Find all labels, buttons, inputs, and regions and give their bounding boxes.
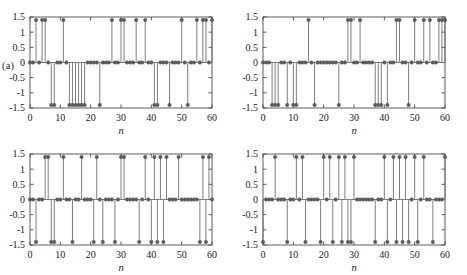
stem-marker [343,155,346,158]
stem-marker [298,198,301,201]
stem-marker [198,240,201,243]
stem-marker [183,61,186,64]
stem-marker [352,155,355,158]
stem-marker [59,198,62,201]
stem-marker [425,61,428,64]
stem-marker [276,103,279,106]
panel-label-a: (a) [2,60,14,71]
stem-marker [301,155,304,158]
stem-marker [165,155,168,158]
y-tick-label: 0 [20,57,25,68]
stem-marker [34,240,37,243]
stem-marker [261,240,264,243]
stem-marker [431,240,434,243]
stem-marker [383,155,386,158]
stem-marker [343,61,346,64]
y-tick-label: -0.5 [9,209,25,220]
x-axis-label: n [118,125,123,136]
x-tick-label: 60 [207,112,217,123]
panel-b-left-svg: 1.510.50-0.5-1-1.50102030405060n [0,138,234,275]
x-tick-label: 30 [116,249,126,260]
x-tick-label: 30 [349,112,359,123]
stem-marker [270,198,273,201]
stem-marker [71,240,74,243]
stem-marker [422,18,425,21]
stem-marker [53,103,56,106]
stem-marker [380,198,383,201]
stem-marker [334,198,337,201]
stem-marker [53,240,56,243]
stem-marker [153,155,156,158]
stem-marker [410,198,413,201]
x-tick-label: 50 [410,112,420,123]
stem-marker [292,198,295,201]
stem-marker [401,240,404,243]
stem-marker [144,18,147,21]
stem-marker [180,18,183,21]
x-tick-label: 10 [288,249,298,260]
stem-marker [80,155,83,158]
y-tick-label: 1 [20,27,25,38]
stem-marker [267,61,270,64]
stem-marker [162,240,165,243]
stem-marker [204,240,207,243]
stem-marker [95,61,98,64]
y-tick-label: 1 [253,164,258,175]
stem-marker [371,61,374,64]
stem-marker [404,155,407,158]
y-tick-label: -1 [17,87,25,98]
stem-marker [295,103,298,106]
stem-marker [47,61,50,64]
stem-marker [47,155,50,158]
stem-marker [349,240,352,243]
stem-marker [380,103,383,106]
x-tick-label: 60 [440,249,450,260]
stem-marker [307,18,310,21]
stem-marker [147,198,150,201]
stem-marker [101,240,104,243]
stem-marker [358,18,361,21]
x-tick-label: 10 [55,249,65,260]
stem-marker [325,198,328,201]
y-tick-label: -0.5 [9,72,25,83]
stem-marker [392,61,395,64]
x-tick-label: 50 [177,249,187,260]
panel-a-left: 1.510.50-0.5-1-1.50102030405060n (a) [0,0,234,138]
stem-marker [37,61,40,64]
y-tick-label: -1 [250,224,258,235]
stem-marker [434,61,437,64]
y-tick-label: -1.5 [242,102,258,113]
stem-marker [144,155,147,158]
x-tick-label: 0 [28,249,33,260]
stem-marker [77,198,80,201]
stem-marker [316,198,319,201]
stem-marker [383,61,386,64]
y-tick-label: -0.5 [242,72,258,83]
stem-marker [207,61,210,64]
stem-marker [389,198,392,201]
stem-marker [407,103,410,106]
stem-marker [304,61,307,64]
x-tick-label: 50 [410,249,420,260]
stem-marker [286,103,289,106]
stem-marker [141,61,144,64]
stem-marker [319,240,322,243]
stem-marker [43,18,46,21]
y-tick-label: 0.5 [13,42,26,53]
x-tick-label: 20 [319,249,329,260]
x-axis-label: n [351,262,356,273]
x-tick-label: 40 [379,112,389,123]
stem-marker [134,198,137,201]
stem-marker [31,198,34,201]
stem-marker [134,18,137,21]
stem-marker [201,155,204,158]
y-tick-label: 1 [20,164,25,175]
stem-plot-figure: 1.510.50-0.5-1-1.50102030405060n (a) 1.5… [0,0,467,275]
x-tick-label: 60 [207,249,217,260]
stem-marker [337,155,340,158]
stem-marker [295,155,298,158]
y-tick-label: -0.5 [242,209,258,220]
stem-marker [410,61,413,64]
stem-marker [419,61,422,64]
stem-marker [150,61,153,64]
